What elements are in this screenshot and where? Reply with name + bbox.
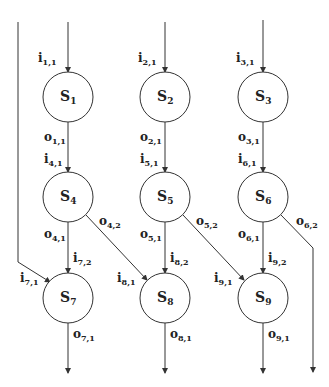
input-port-label-9-1: i9,1 — [214, 271, 232, 287]
input-port-label-5-1: i5,1 — [140, 152, 158, 168]
dataflow-diagram: S1S2S3S4S5S6S7S8S9 i1,1i2,1i3,1i7,1o1,1i… — [0, 0, 329, 387]
node-s1: S1 — [43, 72, 93, 122]
node-s3: S3 — [238, 72, 288, 122]
input-port-label-6-1: i6,1 — [238, 152, 256, 168]
output-port-label-5-2: o5,2 — [196, 214, 218, 230]
input-port-label-7-2: i7,2 — [73, 251, 91, 267]
node-s6: S6 — [238, 172, 288, 222]
output-port-label-6-1: o6,1 — [238, 227, 260, 243]
output-port-label-1-1: o1,1 — [44, 130, 66, 146]
input-port-label-1-1: i1,1 — [38, 51, 56, 67]
output-port-label-8-1: o8,1 — [170, 327, 192, 343]
output-port-label-9-1: o9,1 — [268, 327, 290, 343]
input-port-label-4-1: i4,1 — [44, 152, 62, 168]
output-port-label-7-1: o7,1 — [73, 327, 95, 343]
output-port-label-4-2: o4,2 — [99, 214, 121, 230]
input-port-label-3-1: i3,1 — [236, 51, 254, 67]
node-s8: S8 — [140, 273, 190, 323]
output-port-label-6-2: o6,2 — [296, 214, 318, 230]
node-s5: S5 — [140, 172, 190, 222]
input-port-label-9-2: i9,2 — [268, 251, 286, 267]
input-port-label-2-1: i2,1 — [138, 51, 156, 67]
node-s2: S2 — [140, 72, 190, 122]
output-port-label-2-1: o2,1 — [140, 130, 162, 146]
node-s4: S4 — [43, 172, 93, 222]
node-s7: S7 — [43, 273, 93, 323]
output-port-label-4-1: o4,1 — [44, 227, 66, 243]
output-port-label-3-1: o3,1 — [238, 130, 260, 146]
input-port-label-8-1: i8,1 — [117, 271, 135, 287]
input-port-label-8-2: i8,2 — [170, 251, 188, 267]
output-port-label-5-1: o5,1 — [140, 227, 162, 243]
node-s9: S9 — [238, 273, 288, 323]
